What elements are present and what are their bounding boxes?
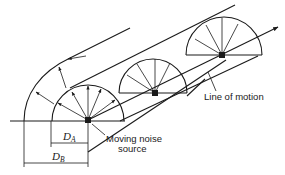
- source-label-line2: source: [118, 143, 147, 154]
- line-of-motion-leader: [208, 72, 216, 91]
- tube-lower-line: [120, 56, 258, 121]
- hemisphere-3-outline: [186, 17, 262, 55]
- outer-wavefront-top-line: [70, 28, 130, 58]
- outer-radial-arrow-2: [36, 92, 54, 104]
- outer-radial-arrow-1: [59, 67, 66, 88]
- tube-upper-line: [70, 5, 235, 88]
- hemisphere-2-center: [152, 90, 158, 96]
- moving-noise-source-diagram: Line of motion Moving noise source DA DB: [0, 0, 285, 175]
- dim-a-label: DA: [62, 130, 76, 144]
- hemisphere-1-arrows: [58, 86, 115, 120]
- hemisphere-2-rays: [127, 59, 170, 93]
- source-leader: [92, 124, 105, 135]
- dim-b-label: DB: [51, 150, 65, 164]
- line-of-motion-arrow: [88, 27, 278, 120]
- tube-connector: [187, 79, 205, 96]
- line-of-motion-label: Line of motion: [204, 91, 264, 102]
- outer-wavefront-arc: [24, 58, 70, 121]
